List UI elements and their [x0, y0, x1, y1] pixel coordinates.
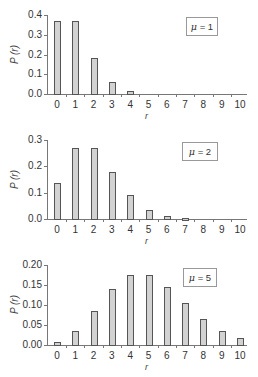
x-tick-label: 10	[232, 350, 248, 361]
y-tick	[44, 305, 47, 306]
x-tick-label: 9	[214, 350, 230, 361]
x-tick-label: 0	[49, 350, 65, 361]
bar-r-5	[146, 275, 153, 346]
x-tick	[66, 345, 67, 348]
bar-r-8	[200, 319, 207, 346]
x-tick	[231, 345, 232, 348]
x-tick	[139, 345, 140, 348]
x-tick-label: 1	[67, 350, 83, 361]
x-tick-label: 2	[86, 350, 102, 361]
legend-box: μ = 5	[183, 268, 217, 287]
x-tick-label: 5	[141, 350, 157, 361]
x-tick-label: 8	[195, 350, 211, 361]
y-tick-label: 0.00	[6, 339, 42, 350]
bar-r-7	[182, 303, 189, 346]
bar-r-10	[237, 338, 244, 346]
x-tick	[158, 345, 159, 348]
x-axis-label: r	[145, 362, 148, 372]
x-tick	[176, 345, 177, 348]
y-tick-label: 0.15	[6, 279, 42, 290]
bar-r-4	[127, 275, 134, 346]
bar-r-0	[54, 342, 61, 346]
x-tick	[194, 345, 195, 348]
bar-r-1	[72, 331, 79, 346]
x-tick	[213, 345, 214, 348]
y-tick	[44, 345, 47, 346]
x-tick	[103, 345, 104, 348]
x-tick-label: 4	[122, 350, 138, 361]
x-tick	[84, 345, 85, 348]
bar-r-3	[109, 289, 116, 346]
bar-r-2	[91, 311, 98, 346]
y-tick-label: 0.05	[6, 319, 42, 330]
x-tick	[121, 345, 122, 348]
x-tick-label: 7	[177, 350, 193, 361]
y-tick-label: 0.20	[6, 259, 42, 270]
bar-r-6	[164, 287, 171, 346]
x-tick-label: 3	[104, 350, 120, 361]
y-tick	[44, 325, 47, 326]
y-tick	[44, 285, 47, 286]
y-tick	[44, 265, 47, 266]
chart-panel-mu-5: 0.000.050.100.150.20012345678910P (r)rμ …	[0, 0, 258, 377]
bar-r-9	[219, 331, 226, 346]
y-axis-label: P (r)	[9, 291, 20, 319]
x-tick-label: 6	[159, 350, 175, 361]
legend-value: = 5	[195, 272, 211, 283]
y-axis	[47, 265, 48, 346]
